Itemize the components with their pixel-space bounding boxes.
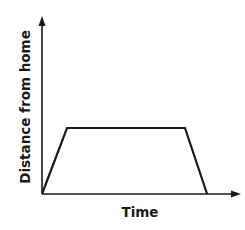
x-axis-label: Time (121, 204, 158, 220)
y-axis-label: Distance from home (17, 30, 33, 184)
distance-time-graph: Distance from home Time (0, 0, 245, 230)
distance-line (42, 128, 207, 194)
x-axis-arrow-icon (231, 191, 241, 198)
y-axis-arrow-icon (39, 16, 46, 26)
